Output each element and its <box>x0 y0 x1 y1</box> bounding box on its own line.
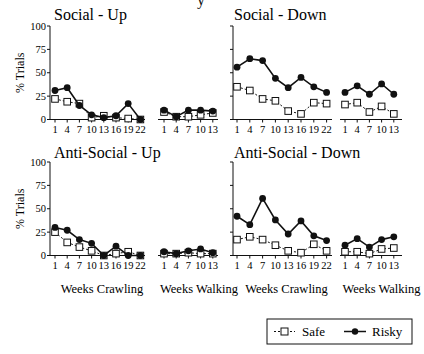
x-tick-label: 7 <box>260 260 265 271</box>
risky-point-circle-icon <box>272 75 279 82</box>
risky-point-circle-icon <box>354 235 361 242</box>
panel-social-up: Social - Up0255075100% Trials14710131619… <box>13 6 218 135</box>
risky-point-circle-icon <box>125 100 132 107</box>
legend-risky-label: Risky <box>372 324 403 339</box>
walking-segment: 1471013 <box>340 81 402 135</box>
safe-point-square-icon <box>88 248 95 255</box>
x-tick-label: 10 <box>270 124 281 135</box>
panel-title: Anti-Social - Up <box>54 144 161 162</box>
safe-point-square-icon <box>323 248 330 255</box>
x-tick-label: 19 <box>123 124 134 135</box>
risky-point-circle-icon <box>88 111 95 118</box>
risky-point-circle-icon <box>378 81 385 88</box>
safe-point-square-icon <box>285 108 292 115</box>
risky-point-circle-icon <box>185 247 192 254</box>
risky-point-circle-icon <box>246 55 253 62</box>
x-tick-label: 1 <box>52 124 57 135</box>
safe-point-square-icon <box>311 241 318 248</box>
x-tick-label: 4 <box>355 260 361 271</box>
risky-point-circle-icon <box>125 252 132 259</box>
x-axis-label-crawling: Weeks Crawling <box>245 282 328 296</box>
crawling-segment: 1471013161922 <box>233 55 332 134</box>
panel-title: Social - Up <box>54 6 127 24</box>
top-fragment: y <box>197 0 205 9</box>
x-tick-label: 7 <box>367 124 372 135</box>
x-tick-label: 7 <box>367 260 372 271</box>
legend: Safe Risky <box>267 319 412 344</box>
y-tick-label: 0 <box>41 250 46 261</box>
risky-point-circle-icon <box>234 64 241 71</box>
risky-point-circle-icon <box>310 232 317 239</box>
y-tick-label: 100 <box>30 157 46 168</box>
safe-point-square-icon <box>64 239 71 246</box>
x-tick-label: 7 <box>77 124 82 135</box>
x-tick-label: 13 <box>283 124 294 135</box>
safe-point-square-icon <box>247 87 254 94</box>
y-tick-label: 75 <box>36 44 47 55</box>
walking-segment: 1471013 <box>340 233 402 270</box>
x-tick-label: 22 <box>321 124 332 135</box>
risky-point-circle-icon <box>185 107 192 114</box>
x-tick-label: 4 <box>174 260 180 271</box>
y-tick-label: 50 <box>36 67 47 78</box>
risky-point-circle-icon <box>137 252 144 259</box>
risky-point-circle-icon <box>76 102 83 109</box>
x-tick-label: 10 <box>376 124 387 135</box>
safe-point-square-icon <box>366 109 373 116</box>
risky-point-circle-icon <box>366 91 373 98</box>
risky-point-circle-icon <box>310 83 317 90</box>
risky-point-circle-icon <box>285 84 292 91</box>
risky-point-circle-icon <box>52 87 59 94</box>
risky-point-circle-icon <box>137 116 144 123</box>
safe-point-square-icon <box>298 111 305 118</box>
crawling-segment: 1471013161922 <box>233 195 332 270</box>
safe-point-square-icon <box>259 236 266 243</box>
x-axis-label-walking: Weeks Walking <box>343 282 422 296</box>
safe-point-square-icon <box>259 96 266 103</box>
risky-point-circle-icon <box>209 108 216 115</box>
x-tick-label: 7 <box>186 260 191 271</box>
y-tick-label: 50 <box>36 203 47 214</box>
x-tick-label: 7 <box>260 124 265 135</box>
x-tick-label: 10 <box>195 124 206 135</box>
x-tick-label: 1 <box>161 260 166 271</box>
y-tick-label: 75 <box>36 180 47 191</box>
x-tick-label: 13 <box>99 260 110 271</box>
safe-point-square-icon <box>76 244 83 251</box>
x-tick-label: 4 <box>65 124 71 135</box>
safe-point-square-icon <box>323 100 330 107</box>
risky-point-circle-icon <box>378 236 385 243</box>
x-tick-label: 1 <box>234 260 239 271</box>
panel-anti-social-down: Anti-Social - Down14710131619221471013We… <box>230 144 421 296</box>
crawling-segment: 1471013161922 <box>50 84 146 134</box>
x-tick-label: 13 <box>283 260 294 271</box>
x-tick-label: 13 <box>389 124 400 135</box>
risky-point-circle-icon <box>113 243 120 250</box>
panels: Social - Up0255075100% Trials14710131619… <box>13 6 421 296</box>
x-tick-label: 1 <box>52 260 57 271</box>
safe-point-square-icon <box>391 245 398 252</box>
x-tick-label: 10 <box>376 260 387 271</box>
x-tick-label: 13 <box>389 260 400 271</box>
x-tick-label: 10 <box>86 124 97 135</box>
risky-point-circle-icon <box>323 237 330 244</box>
x-tick-label: 7 <box>186 124 191 135</box>
y-axis-label: % Trials <box>13 188 27 229</box>
x-tick-label: 1 <box>342 124 347 135</box>
safe-point-square-icon <box>298 249 305 256</box>
x-tick-label: 4 <box>247 260 253 271</box>
safe-point-square-icon <box>185 113 192 120</box>
risky-point-circle-icon <box>209 249 216 256</box>
safe-point-square-icon <box>354 99 361 106</box>
risky-point-circle-icon <box>173 250 180 257</box>
x-tick-label: 16 <box>111 260 122 271</box>
safe-point-square-icon <box>52 96 59 103</box>
walking-segment: 1471013 <box>158 246 218 271</box>
legend-safe-label: Safe <box>302 324 325 339</box>
safe-point-square-icon <box>354 248 361 255</box>
y-tick-label: 0 <box>41 114 46 125</box>
y-tick-label: 100 <box>30 21 46 32</box>
risky-point-circle-icon <box>197 107 204 114</box>
risky-point-circle-icon <box>342 89 349 96</box>
x-tick-label: 4 <box>65 260 71 271</box>
